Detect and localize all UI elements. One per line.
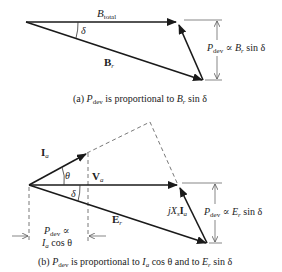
- delta-arc-b: [78, 185, 80, 201]
- caption-b: (b) Pdev is proportional to Ia cos θ and…: [38, 256, 232, 269]
- i-a-label: Ia: [41, 146, 49, 160]
- b-s-vector: [179, 25, 203, 80]
- figure-a: δ Btotal Br Pdev ∝ Br sin δ (a) Pdev is …: [26, 7, 277, 106]
- delta-label-a: δ: [81, 25, 86, 36]
- dim-label-b-left-line2: Ia cos θ: [41, 237, 72, 250]
- b-total-label: Btotal: [97, 7, 116, 21]
- jxs-ia-label: jXsIa: [166, 205, 188, 218]
- theta-label: θ: [65, 170, 70, 181]
- delta-label-b: δ: [71, 188, 76, 199]
- phasor-diagram: δ Btotal Br Pdev ∝ Br sin δ (a) Pdev is …: [0, 0, 282, 272]
- b-r-vector: [26, 22, 202, 80]
- figure-b: θ δ Ia Va Er jXsIa Pdev ∝ Er sin δ Pdev …: [12, 122, 277, 269]
- i-a-vector: [29, 154, 86, 185]
- caption-a: (a) Pdev is proportional to Br sin δ: [73, 93, 207, 106]
- theta-arc: [62, 167, 64, 185]
- b-r-label: Br: [104, 56, 114, 70]
- delta-arc-a: [76, 22, 78, 38]
- v-a-label: Va: [92, 170, 104, 184]
